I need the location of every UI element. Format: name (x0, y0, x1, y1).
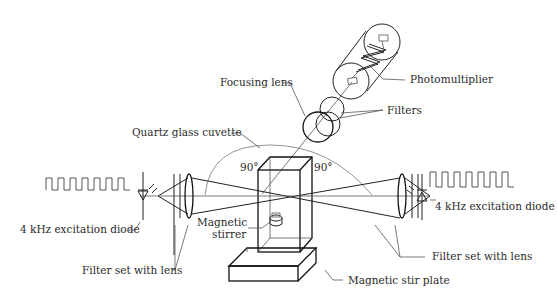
label-filters: Filters (387, 104, 422, 116)
label-stirrer-line1: Magnetic (197, 216, 247, 228)
label-cuvette: Quartz glass cuvette (132, 126, 242, 138)
label-diode-right: 4 kHz excitation diode (435, 200, 555, 212)
label-photomultiplier: Photomultiplier (410, 73, 494, 85)
label-filter-set-left: Filter set with lens (82, 264, 182, 276)
square-wave-right-icon (430, 172, 514, 187)
square-wave-left-icon (46, 178, 130, 190)
label-angle-right: 90° (314, 161, 333, 173)
led-diode-right-icon (407, 174, 436, 220)
label-stirrer-line2: stirrer (212, 228, 247, 240)
label-filter-set-right: Filter set with lens (432, 250, 532, 262)
photomultiplier-tube-icon (333, 24, 400, 99)
label-angle-left: 90° (240, 161, 259, 173)
cuvette-icon (258, 157, 312, 252)
label-focusing-lens: Focusing lens (220, 76, 293, 88)
stir-plate-icon (229, 248, 316, 281)
filter-set-left-icon (174, 174, 193, 255)
fluorescence-setup-diagram: Photomultiplier Filters Focusing lens Qu… (0, 0, 557, 301)
label-diode-left: 4 kHz excitation diode (20, 223, 140, 235)
diagram-canvas: Photomultiplier Filters Focusing lens Qu… (0, 0, 557, 301)
label-stir-plate: Magnetic stir plate (348, 274, 450, 286)
stir-bar-icon (270, 213, 282, 226)
excitation-beams (140, 178, 430, 218)
optical-filter-icon (316, 97, 344, 136)
